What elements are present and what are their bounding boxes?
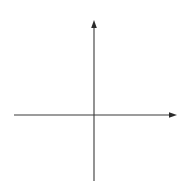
y-axis-arrow-icon xyxy=(91,20,97,28)
axes xyxy=(14,20,177,181)
coordinate-plane xyxy=(0,0,187,192)
x-axis-arrow-icon xyxy=(169,112,177,118)
